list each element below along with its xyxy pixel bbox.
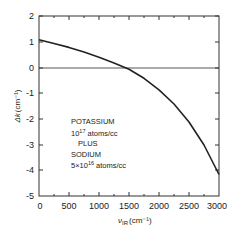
svg-text:2000: 2000 (149, 201, 169, 211)
svg-text:2: 2 (29, 11, 34, 21)
svg-text:POTASSIUM: POTASSIUM (71, 117, 115, 126)
x-tick-labels: 0 500 1000 1500 2000 2500 3000 (37, 201, 227, 211)
plot-frame (39, 16, 219, 196)
x-axis-label: νIR(cm⁻¹) (118, 216, 152, 226)
svg-text:PLUS: PLUS (78, 139, 98, 148)
svg-text:Δk(cm⁻¹): Δk(cm⁻¹) (13, 89, 22, 123)
y-ticks (39, 16, 219, 170)
svg-text:0: 0 (29, 63, 34, 73)
svg-text:-1: -1 (26, 88, 34, 98)
y-tick-labels: 2 1 0 -1 -2 -3 -4 -5 (26, 11, 34, 201)
annotation-block: POTASSIUM 1017 atoms/cc PLUS SODIUM 5×10… (71, 117, 126, 170)
svg-text:-5: -5 (26, 191, 34, 201)
svg-text:1017 atoms/cc: 1017 atoms/cc (71, 128, 118, 138)
svg-text:1500: 1500 (119, 201, 139, 211)
svg-text:3000: 3000 (207, 201, 227, 211)
svg-text:-4: -4 (26, 165, 34, 175)
svg-text:1000: 1000 (89, 201, 109, 211)
y-axis-label: Δk(cm⁻¹) (13, 89, 22, 123)
svg-text:500: 500 (61, 201, 76, 211)
svg-text:SODIUM: SODIUM (71, 150, 101, 159)
svg-text:-2: -2 (26, 114, 34, 124)
chart: 2 1 0 -1 -2 -3 -4 -5 0 500 1000 1500 200… (0, 0, 237, 236)
svg-text:-3: -3 (26, 140, 34, 150)
svg-text:0: 0 (37, 201, 42, 211)
svg-text:2500: 2500 (179, 201, 199, 211)
svg-text:1: 1 (29, 37, 34, 47)
data-curve (39, 40, 219, 175)
svg-text:νIR(cm⁻¹): νIR(cm⁻¹) (118, 216, 152, 226)
svg-text:5×1016 atoms/cc: 5×1016 atoms/cc (71, 160, 126, 170)
